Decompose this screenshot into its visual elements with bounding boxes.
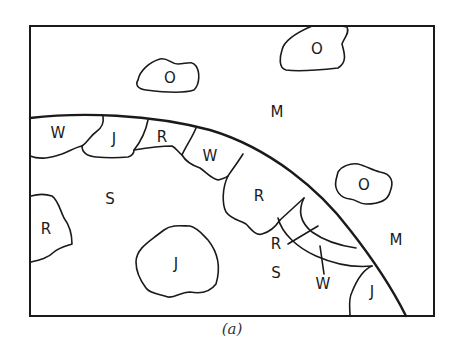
main-curved-boundary [30,115,406,316]
label-r-band-2: R [254,187,264,205]
geologic-map-diagram: O O M W J R W R O S R M R J S W J (a) [0,0,461,352]
label-w-band-1: W [51,124,66,142]
label-mantle: M [271,103,284,121]
label-w-band-2: W [203,147,218,165]
label-j-bottom: J [173,255,178,273]
band-w1-j1-divider [82,116,134,158]
r-blob-left [31,195,72,263]
label-o-right: O [358,176,370,194]
label-r-wedge: R [271,235,281,253]
figure-caption: (a) [222,320,243,338]
label-s: S [105,190,115,208]
band-w2-r2-divider [223,154,280,234]
r-leader-line [288,226,318,244]
label-m-right: M [390,231,403,249]
label-r-band-1: R [157,128,167,146]
label-o-top-left: O [164,69,176,87]
band-w1-bottom [30,146,82,158]
label-s-bottom: S [271,264,281,282]
label-o-top-right: O [311,40,323,58]
label-r-left: R [41,220,51,238]
label-j-band-1: J [111,130,116,148]
label-w-wedge: W [316,275,331,293]
label-j-corner: J [369,283,374,301]
w-leader-line [320,246,324,274]
j-corner-boundary [350,266,373,316]
